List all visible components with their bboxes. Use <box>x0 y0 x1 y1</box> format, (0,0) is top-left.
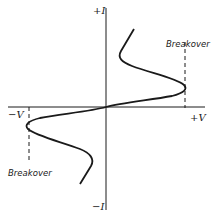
y-positive-label: +I <box>93 5 106 16</box>
x-negative-label: −V <box>8 109 25 120</box>
x-positive-label: +V <box>190 112 207 123</box>
y-negative-label: −I <box>92 201 105 212</box>
breakover-negative-label: Breakover <box>8 168 52 178</box>
breakover-positive-label: Breakover <box>166 39 210 49</box>
vi-characteristic-diagram: +I −I +V −V Breakover Breakover <box>0 0 212 218</box>
